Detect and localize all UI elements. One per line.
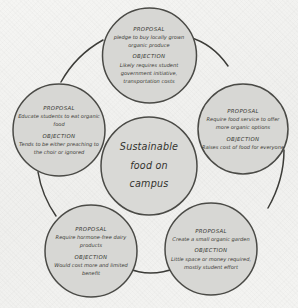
center-line-2: food on (120, 157, 178, 176)
objection-label: OBJECTION (132, 52, 165, 60)
objection-text: Raises cost of food for everyone (200, 143, 286, 151)
node-hormone-free-dairy[interactable]: PROPOSAL Require hormone-free dairy prod… (45, 205, 137, 297)
proposal-label: PROPOSAL (227, 107, 259, 115)
proposal-text: Educate students to eat organic food (13, 112, 105, 129)
objection-text: Likely requires student government initi… (102, 61, 196, 86)
objection-label: OBJECTION (226, 135, 259, 143)
connector-left-to-top (61, 40, 103, 82)
proposal-text: pledge to buy locally grown organic prod… (102, 33, 196, 50)
objection-text: Would cost more and limited benefit (45, 261, 137, 278)
node-buy-local-produce[interactable]: PROPOSAL pledge to buy locally grown org… (102, 8, 196, 102)
node-educate-students[interactable]: PROPOSAL Educate students to eat organic… (13, 84, 105, 176)
objection-label: OBJECTION (74, 253, 107, 261)
proposal-label: PROPOSAL (75, 225, 107, 233)
node-food-service-organic-options[interactable]: PROPOSAL Require food service to offer m… (198, 84, 288, 174)
proposal-text: Require hormone-free dairy products (45, 233, 137, 250)
proposal-label: PROPOSAL (43, 104, 75, 112)
center-line-3: campus (120, 175, 178, 194)
proposal-label: PROPOSAL (133, 25, 165, 33)
objection-text: Tends to be either preaching to the choi… (13, 140, 105, 157)
center-topic-node[interactable]: Sustainable food on campus (103, 120, 195, 212)
objection-label: OBJECTION (194, 246, 227, 254)
objection-text: Little space or money required, mostly s… (165, 255, 257, 272)
proposal-label: PROPOSAL (195, 227, 227, 235)
center-topic-label: Sustainable food on campus (120, 138, 178, 194)
proposal-text: Require food service to offer more organ… (198, 115, 288, 132)
node-small-organic-garden[interactable]: PROPOSAL Create a small organic garden O… (165, 203, 257, 295)
diagram-canvas: PROPOSAL pledge to buy locally grown org… (0, 0, 298, 308)
objection-label: OBJECTION (42, 132, 75, 140)
proposal-text: Create a small organic garden (170, 235, 251, 243)
center-line-1: Sustainable (120, 138, 178, 157)
